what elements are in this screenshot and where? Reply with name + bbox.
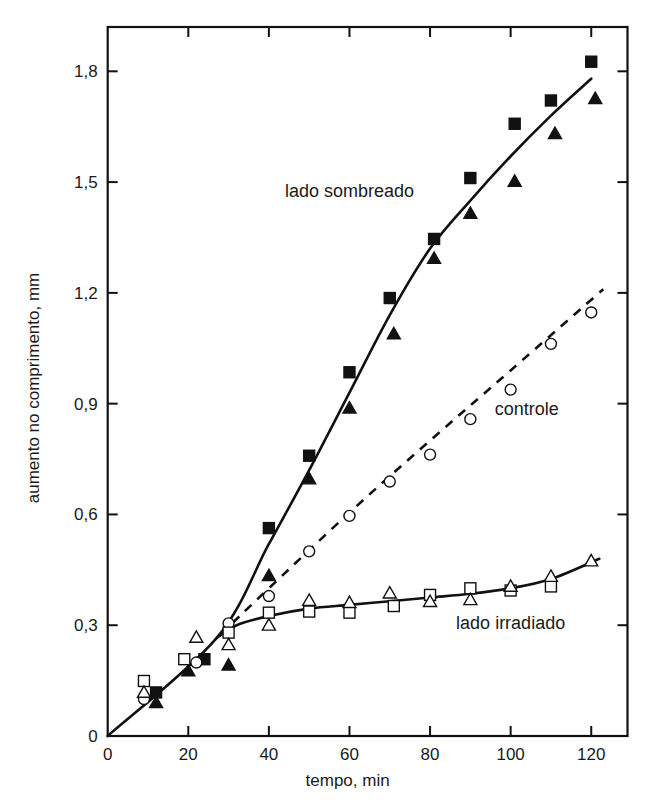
open-circle-marker — [545, 338, 556, 349]
y-axis-title: aumento no comprimento, mm — [24, 273, 43, 504]
y-tick-label: 1,2 — [74, 284, 98, 303]
open-circle-marker — [465, 414, 476, 425]
annotation-label: controle — [495, 399, 559, 419]
open-circle-marker — [505, 384, 516, 395]
filled-square-marker — [429, 233, 440, 244]
x-axis-title: tempo, min — [306, 771, 390, 790]
y-tick-label: 1,8 — [74, 62, 98, 81]
filled-square-marker — [545, 95, 556, 106]
open-circle-marker — [344, 510, 355, 521]
filled-square-marker — [509, 118, 520, 129]
open-circle-marker — [304, 546, 315, 557]
y-tick-label: 0,6 — [74, 505, 98, 524]
chart: 02040608010012000,30,60,91,21,51,8 tempo… — [0, 0, 653, 809]
x-tick-label: 60 — [340, 745, 359, 764]
open-circle-marker — [425, 449, 436, 460]
filled-square-marker — [586, 56, 597, 67]
open-square-marker — [304, 606, 315, 617]
filled-square-marker — [304, 450, 315, 461]
x-tick-label: 100 — [496, 745, 524, 764]
open-square-marker — [179, 654, 190, 665]
x-tick-label: 20 — [179, 745, 198, 764]
annotation-label: lado sombreado — [285, 181, 414, 201]
open-square-marker — [545, 581, 556, 592]
x-tick-label: 40 — [259, 745, 278, 764]
open-circle-marker — [263, 591, 274, 602]
y-tick-label: 0 — [88, 727, 97, 746]
open-circle-marker — [384, 476, 395, 487]
x-tick-label: 80 — [421, 745, 440, 764]
y-tick-label: 0,9 — [74, 395, 98, 414]
filled-square-marker — [344, 367, 355, 378]
y-tick-label: 1,5 — [74, 173, 98, 192]
open-square-marker — [344, 607, 355, 618]
open-circle-marker — [191, 657, 202, 668]
filled-square-marker — [465, 173, 476, 184]
filled-square-marker — [384, 293, 395, 304]
annotation-label: lado irradiado — [456, 613, 565, 633]
y-tick-label: 0,3 — [74, 616, 98, 635]
open-square-marker — [388, 601, 399, 612]
open-circle-marker — [586, 307, 597, 318]
x-tick-label: 120 — [577, 745, 605, 764]
open-square-marker — [263, 607, 274, 618]
filled-square-marker — [263, 523, 274, 534]
x-tick-label: 0 — [103, 745, 112, 764]
open-square-marker — [223, 627, 234, 638]
